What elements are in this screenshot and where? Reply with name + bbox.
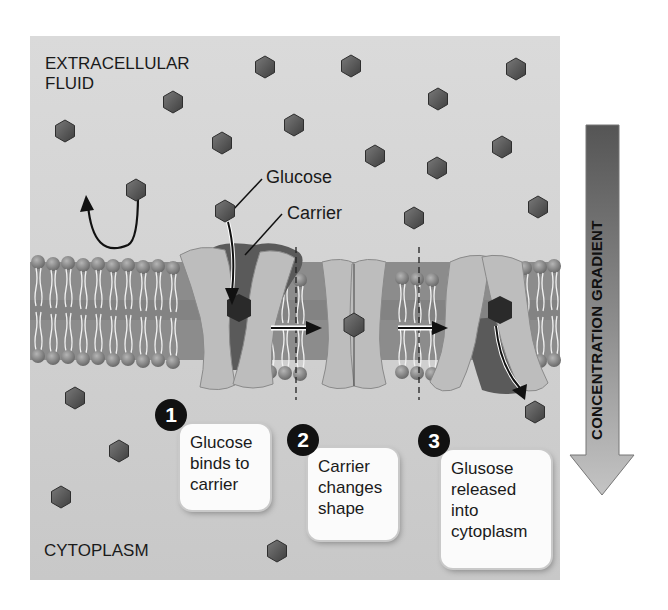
step-1-badge: 1 (155, 399, 187, 431)
cytoplasm-label: CYTOPLASM (44, 541, 149, 561)
extracellular-label-line2: FLUID (45, 74, 94, 94)
step-1-line3: carrier (190, 474, 260, 495)
bounce-arrow (88, 195, 138, 248)
concentration-gradient-label: CONCENTRATION GRADIENT (588, 220, 605, 440)
step-2-line3: shape (318, 498, 388, 519)
carrier-protein-2 (322, 259, 386, 388)
step-2-box: Carrier changes shape (308, 448, 398, 540)
glucose-leader-line (232, 179, 262, 211)
step-3-badge: 3 (418, 425, 450, 457)
carrier-callout: Carrier (287, 203, 342, 223)
step-2-badge: 2 (287, 424, 319, 456)
step-1-line1: Glucose (190, 432, 260, 453)
step-1-box: Glucose binds to carrier (180, 424, 270, 510)
step-1-line2: binds to (190, 453, 260, 474)
step-2-line1: Carrier (318, 456, 388, 477)
step-3-line3: into (451, 500, 541, 521)
glucose-callout: Glucose (266, 167, 332, 187)
step-3-line2: released (451, 479, 541, 500)
step-3-line4: cytoplasm (451, 521, 541, 542)
step-3-line1: Glusose (451, 458, 541, 479)
step-2-line2: changes (318, 477, 388, 498)
extracellular-label-line1: EXTRACELLULAR (45, 54, 190, 74)
step-3-box: Glusose released into cytoplasm (441, 450, 551, 568)
